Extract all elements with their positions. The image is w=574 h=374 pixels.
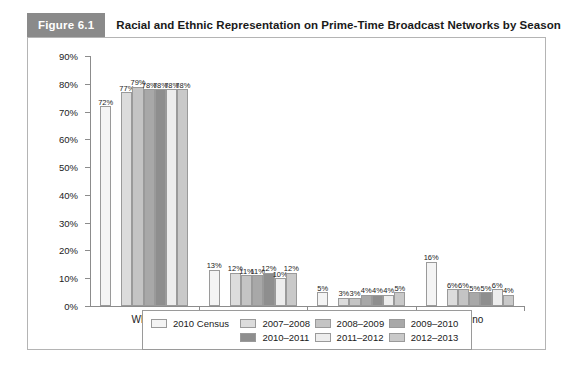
legend-item: 2010 Census bbox=[151, 318, 240, 329]
y-axis-label: 60% bbox=[59, 134, 78, 145]
bar-value-label: 4% bbox=[503, 287, 514, 295]
legend-item: 2008–2009 bbox=[315, 318, 389, 329]
legend-item: 2010–2011 bbox=[240, 332, 314, 343]
bar: 3% bbox=[349, 298, 360, 306]
legend-swatch bbox=[389, 319, 405, 328]
bars-layer: 72%77%79%78%78%78%78%13%12%11%11%12%10%1… bbox=[90, 56, 524, 306]
figure-number-badge: Figure 6.1 bbox=[27, 13, 105, 37]
bar: 12% bbox=[230, 273, 241, 306]
legend-label: 2012–2013 bbox=[411, 332, 459, 343]
legend-swatch bbox=[240, 333, 256, 342]
bar: 11% bbox=[252, 275, 263, 306]
legend-item: 2009–2010 bbox=[389, 318, 463, 329]
legend-swatch bbox=[315, 319, 331, 328]
y-axis-label: 40% bbox=[59, 189, 78, 200]
y-axis-label: 10% bbox=[59, 273, 78, 284]
legend-label: 2010 Census bbox=[173, 318, 229, 329]
bar: 11% bbox=[241, 275, 252, 306]
legend-label: 2010–2011 bbox=[262, 332, 309, 343]
legend-row: 2010 Census2007–20082008–20092009–2010 bbox=[151, 316, 463, 330]
legend-swatch bbox=[240, 319, 256, 328]
bar: 5% bbox=[394, 292, 405, 306]
bar-value-label: 5% bbox=[317, 285, 328, 293]
y-axis-label: 90% bbox=[59, 51, 78, 62]
bar-value-label: 3% bbox=[338, 290, 349, 298]
bar: 4% bbox=[503, 295, 514, 306]
bar: 79% bbox=[132, 87, 143, 306]
bar: 6% bbox=[458, 289, 469, 306]
legend-item: 2012–2013 bbox=[389, 332, 463, 343]
bar: 13% bbox=[209, 270, 220, 306]
bar: 72% bbox=[100, 106, 111, 306]
figure-container: Figure 6.1 Racial and Ethnic Representat… bbox=[0, 0, 574, 374]
y-axis-label: 50% bbox=[59, 162, 78, 173]
y-axis-label: 20% bbox=[59, 245, 78, 256]
legend-item: 2011–2012 bbox=[315, 332, 389, 343]
legend-label: 2011–2012 bbox=[337, 332, 384, 343]
axes: 0%10%20%30%40%50%60%70%80%90% 72%77%79%7… bbox=[90, 56, 524, 306]
bar: 3% bbox=[338, 298, 349, 306]
bar-value-label: 5% bbox=[394, 285, 405, 293]
bar-value-label: 6% bbox=[447, 282, 458, 290]
bar-value-label: 3% bbox=[350, 290, 361, 298]
bar: 77% bbox=[121, 92, 132, 306]
legend-label: 2008–2009 bbox=[337, 318, 385, 329]
bar: 5% bbox=[480, 292, 491, 306]
bar-value-label: 4% bbox=[361, 287, 372, 295]
chart-panel: 0%10%20%30%40%50%60%70%80%90% 72%77%79%7… bbox=[27, 37, 546, 350]
bar-value-label: 16% bbox=[424, 254, 439, 262]
bar: 10% bbox=[275, 278, 286, 306]
bar-value-label: 6% bbox=[458, 282, 469, 290]
bar-value-label: 78% bbox=[175, 82, 190, 90]
legend-label: 2007–2008 bbox=[262, 318, 310, 329]
bar-value-label: 4% bbox=[383, 287, 394, 295]
figure-title: Racial and Ethnic Representation on Prim… bbox=[105, 13, 561, 37]
figure-header: Figure 6.1 Racial and Ethnic Representat… bbox=[27, 13, 548, 37]
legend-swatch bbox=[151, 319, 167, 328]
legend-item: 2007–2008 bbox=[240, 318, 314, 329]
bar-value-label: 4% bbox=[372, 287, 383, 295]
x-axis-tick bbox=[524, 306, 525, 311]
y-axis-label: 80% bbox=[59, 78, 78, 89]
bar: 6% bbox=[492, 289, 503, 306]
bar: 5% bbox=[469, 292, 480, 306]
legend-label: 2009–2010 bbox=[411, 318, 459, 329]
bar: 4% bbox=[383, 295, 394, 306]
bar-value-label: 6% bbox=[492, 282, 503, 290]
bar: 16% bbox=[426, 262, 437, 306]
bar-value-label: 5% bbox=[469, 285, 480, 293]
bar: 5% bbox=[317, 292, 328, 306]
bar: 78% bbox=[177, 89, 188, 306]
y-axis-label: 30% bbox=[59, 217, 78, 228]
y-axis-label: 70% bbox=[59, 106, 78, 117]
bar-value-label: 12% bbox=[284, 265, 299, 273]
chart-legend: 2010 Census2007–20082008–20092009–2010 2… bbox=[142, 310, 472, 350]
bar: 12% bbox=[286, 273, 297, 306]
bar: 4% bbox=[361, 295, 372, 306]
legend-swatch bbox=[389, 333, 405, 342]
bar: 78% bbox=[166, 89, 177, 306]
bar: 78% bbox=[155, 89, 166, 306]
bar-value-label: 5% bbox=[481, 285, 492, 293]
legend-swatch bbox=[315, 333, 331, 342]
legend-row: 2010–20112011–20122012–2013 bbox=[151, 330, 463, 344]
bar-value-label: 13% bbox=[207, 262, 222, 270]
bar: 6% bbox=[447, 289, 458, 306]
plot-wrapper: 0%10%20%30%40%50%60%70%80%90% 72%77%79%7… bbox=[28, 38, 547, 351]
bar: 4% bbox=[372, 295, 383, 306]
bar: 78% bbox=[144, 89, 155, 306]
bar-value-label: 72% bbox=[98, 99, 113, 107]
y-axis-tick bbox=[85, 306, 90, 307]
y-axis-label: 0% bbox=[64, 301, 78, 312]
